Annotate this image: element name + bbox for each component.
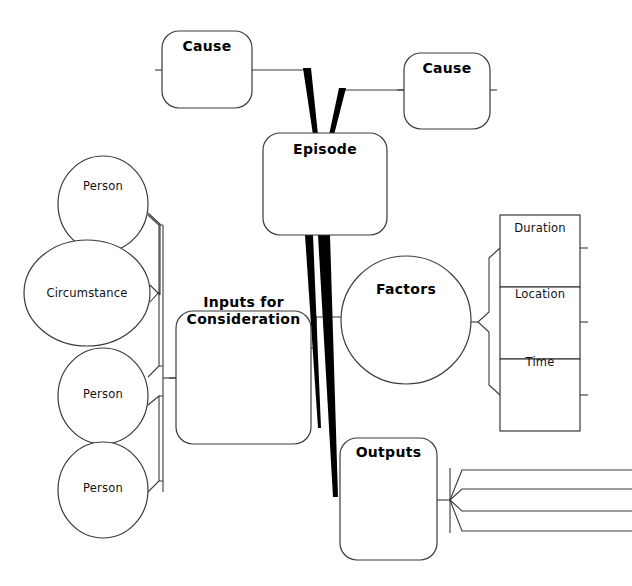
outputs-branch-1 (450, 470, 632, 500)
node-person-1[interactable] (58, 156, 148, 252)
diagram-svg (0, 0, 632, 586)
node-shape-layer (24, 31, 580, 560)
outputs-branch-4 (450, 500, 632, 531)
node-factors[interactable] (341, 256, 471, 384)
node-episode[interactable] (263, 133, 387, 235)
diagram-canvas: Cause Cause Episode Inputs for Considera… (0, 0, 632, 586)
wedge-cause-left-to-episode (303, 68, 318, 135)
node-person-3[interactable] (58, 442, 148, 538)
outputs-branch-2 (450, 489, 632, 500)
node-location[interactable] (500, 287, 580, 359)
node-cause-left[interactable] (162, 31, 252, 108)
outputs-branch-3 (450, 500, 632, 511)
node-cause-right[interactable] (404, 53, 490, 129)
node-outputs[interactable] (340, 438, 437, 560)
node-person-2[interactable] (58, 348, 148, 444)
node-inputs[interactable] (176, 311, 311, 444)
node-time[interactable] (500, 359, 580, 431)
bracket-persons-left-b (148, 396, 159, 492)
node-duration[interactable] (500, 215, 580, 287)
wedge-cause-right-to-episode (329, 88, 346, 135)
wedge-episode-to-outputs (318, 235, 338, 497)
node-circumstance[interactable] (24, 240, 150, 346)
bracket-factors (478, 248, 500, 395)
